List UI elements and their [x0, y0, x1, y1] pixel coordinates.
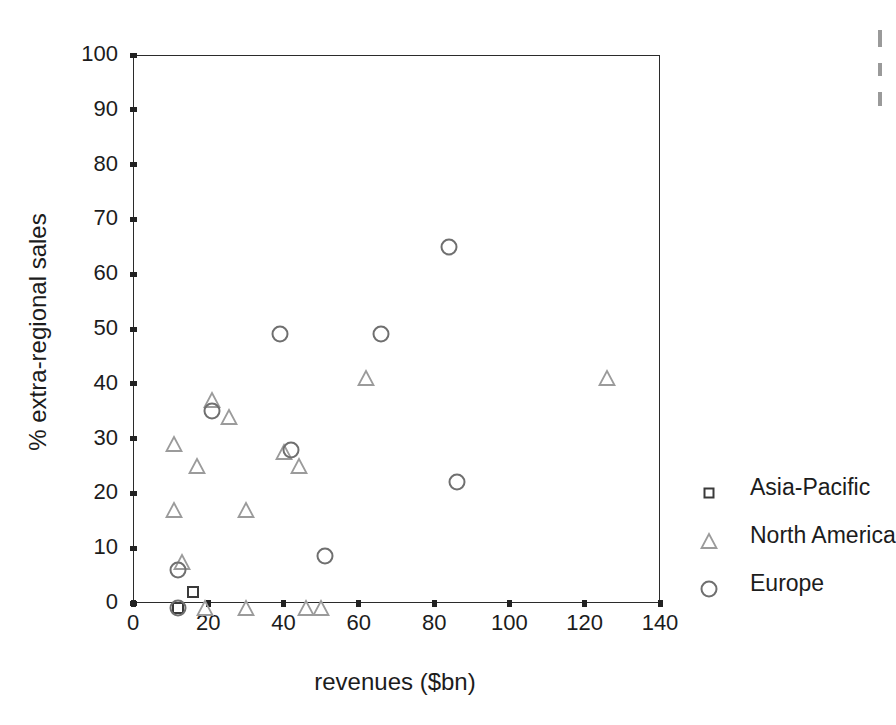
y-tick-label-text: 30: [94, 425, 118, 451]
x-tick-label: 60: [347, 610, 371, 636]
circle-marker-icon: [701, 581, 718, 598]
x-tick-mark: [507, 600, 512, 607]
y-tick-label-text: 90: [94, 96, 118, 122]
legend-item: North America: [694, 518, 890, 566]
cutoff-fragment-3: [878, 92, 882, 106]
x-axis-title: revenues ($bn): [0, 668, 790, 696]
chart-legend: Asia-PacificNorth AmericaEurope: [694, 470, 890, 614]
y-tick-label-text: 20: [94, 479, 118, 505]
data-point-square: [172, 602, 184, 614]
x-tick-label: 80: [422, 610, 446, 636]
y-tick-mark: [130, 491, 137, 496]
x-tick-mark: [281, 600, 286, 607]
legend-symbol: [700, 530, 718, 548]
legend-symbol: [700, 578, 718, 596]
plot-area: [133, 55, 660, 603]
y-tick-mark: [130, 272, 137, 277]
y-tick-mark: [130, 381, 137, 386]
triangle-marker-icon: [700, 532, 718, 550]
x-tick-label: 40: [271, 610, 295, 636]
y-tick-label-text: 80: [94, 151, 118, 177]
legend-label: Europe: [750, 570, 824, 597]
y-tick-mark: [130, 217, 137, 222]
cutoff-fragment-1: [878, 30, 882, 47]
cutoff-fragment-2: [878, 63, 882, 76]
y-tick-label-text: 100: [81, 41, 118, 67]
x-tick-mark: [658, 600, 663, 607]
legend-label: Asia-Pacific: [750, 474, 870, 501]
x-tick-mark: [206, 600, 211, 607]
y-tick-mark: [130, 53, 137, 58]
legend-label: North America: [750, 522, 896, 549]
cutoff-text-fragments: [878, 30, 892, 122]
y-tick-label-text: 0: [106, 589, 118, 615]
square-marker-icon: [704, 488, 715, 499]
y-tick-label-text: 70: [94, 205, 118, 231]
x-tick-label: 120: [566, 610, 603, 636]
y-axis-title: % extra-regional sales: [24, 182, 52, 482]
y-tick-mark: [130, 162, 137, 167]
x-tick-mark: [356, 600, 361, 607]
x-tick-mark: [131, 600, 136, 607]
y-tick-label-text: 40: [94, 370, 118, 396]
x-tick-label: 140: [642, 610, 679, 636]
x-tick-label: 100: [491, 610, 528, 636]
y-tick-mark: [130, 436, 137, 441]
y-tick-label-text: 10: [94, 534, 118, 560]
legend-symbol: [700, 482, 718, 500]
legend-item: Europe: [694, 566, 890, 614]
x-tick-label: 0: [127, 610, 139, 636]
y-tick-mark: [130, 327, 137, 332]
y-tick-mark: [130, 546, 137, 551]
y-tick-label-text: 60: [94, 260, 118, 286]
y-tick-mark: [130, 107, 137, 112]
y-tick-label-text: 50: [94, 315, 118, 341]
x-tick-mark: [432, 600, 437, 607]
x-tick-mark: [582, 600, 587, 607]
legend-item: Asia-Pacific: [694, 470, 890, 518]
x-tick-label: 20: [196, 610, 220, 636]
